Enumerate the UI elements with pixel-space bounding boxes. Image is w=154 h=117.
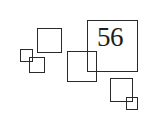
square-tiny-lower-right [126,97,138,110]
square-label: 56 [97,24,123,51]
square-upper-left [37,28,62,53]
square-small-left-overlap [29,57,45,73]
square-middle [67,51,97,82]
